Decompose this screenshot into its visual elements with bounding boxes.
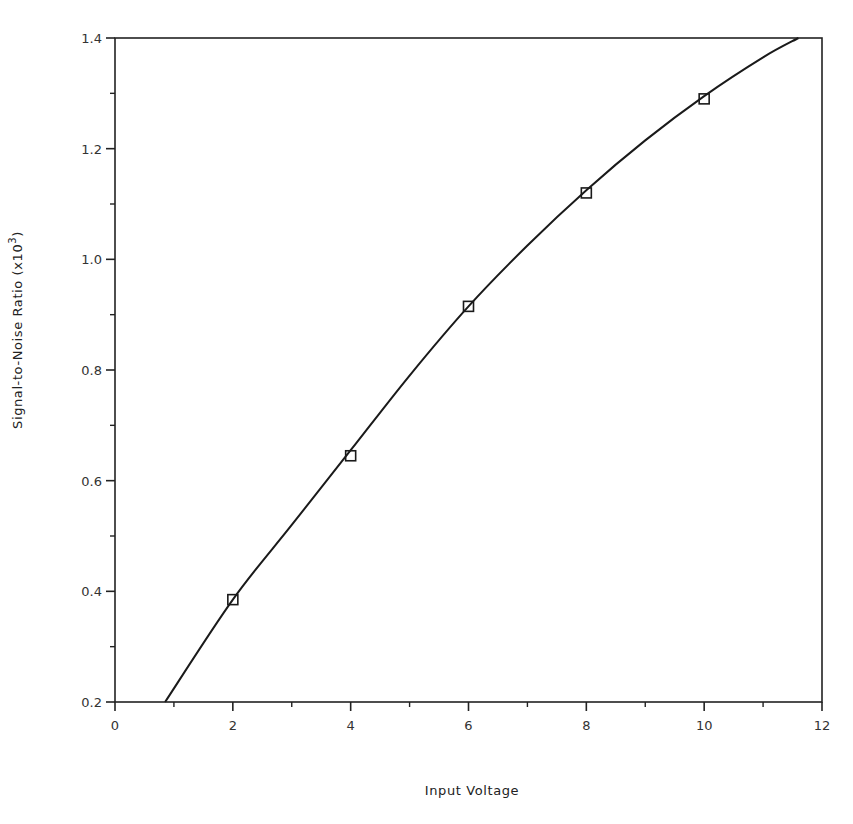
y-tick-label: 1.4 [81,31,102,46]
y-tick-label: 1.2 [81,142,102,157]
y-tick-label: 0.8 [81,363,102,378]
x-tick-labels: 024681012 [111,718,830,733]
data-markers [228,94,709,605]
y-axis-title-main: Signal-to-Noise Ratio (x10 [10,244,25,429]
y-tick-label: 0.4 [81,584,102,599]
fit-curve [165,38,798,702]
x-axis-title: Input Voltage [425,783,519,798]
y-axis-title-sup: 3 [7,237,18,244]
y-tick-labels: 0.20.40.60.81.01.21.4 [81,31,102,710]
x-tick-label: 4 [347,718,355,733]
y-axis-title: Signal-to-Noise Ratio (x103) [7,231,25,429]
x-tick-label: 2 [229,718,237,733]
x-tick-label: 0 [111,718,119,733]
y-tick-label: 1.0 [81,252,102,267]
axis-ticks [106,38,822,711]
x-tick-label: 8 [582,718,590,733]
x-tick-label: 10 [696,718,713,733]
y-tick-label: 0.2 [81,695,102,710]
x-tick-label: 12 [814,718,831,733]
x-tick-label: 6 [464,718,472,733]
plot-frame [115,38,822,702]
y-axis-title-close: ) [10,231,25,237]
y-tick-label: 0.6 [81,474,102,489]
chart: 024681012 0.20.40.60.81.01.21.4 Input Vo… [0,0,853,824]
